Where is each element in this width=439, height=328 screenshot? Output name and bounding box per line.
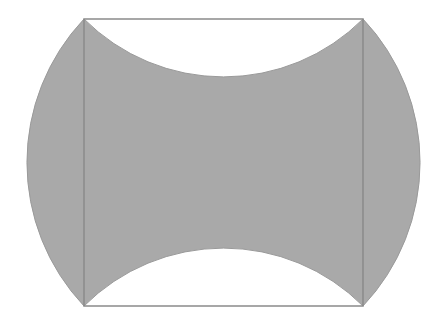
- geometry-diagram: Square with shaded region bounded by two…: [0, 0, 439, 328]
